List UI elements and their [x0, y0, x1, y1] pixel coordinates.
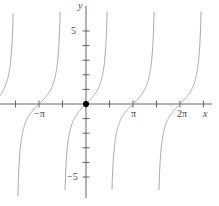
- xtick-label-two-pi: 2π: [177, 109, 187, 119]
- xtick-label-pi: π: [131, 109, 136, 119]
- xtick-label-neg-pi: −π: [34, 109, 45, 119]
- tangent-function-plot: −π π 2π 5 −5 x y: [0, 0, 219, 206]
- y-axis-label: y: [78, 1, 82, 11]
- plot-canvas: [0, 0, 219, 206]
- ytick-label-five: 5: [71, 26, 76, 36]
- x-axis-label: x: [203, 109, 207, 119]
- marked-points-group: [83, 101, 89, 107]
- ytick-label-neg-five: −5: [67, 172, 78, 182]
